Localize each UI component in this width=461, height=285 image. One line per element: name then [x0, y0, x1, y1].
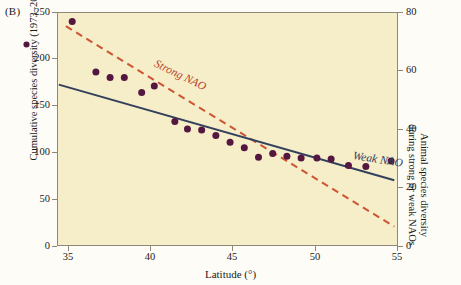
scatter-point	[92, 68, 99, 75]
strong-nao-trendline	[66, 26, 394, 226]
scatter-point	[345, 162, 352, 169]
x-axis-title: Latitude (°)	[0, 268, 461, 280]
scatter-point	[283, 153, 290, 160]
y-right-tick-20: 20	[406, 181, 436, 192]
x-tick-40: 40	[135, 251, 165, 262]
scatter-point	[269, 150, 276, 157]
y-left-tick-250: 250	[20, 6, 50, 17]
scatter-point	[328, 156, 335, 163]
y-left-tick-200: 200	[20, 52, 50, 63]
panel-label: (B)	[5, 5, 20, 17]
scatter-point	[198, 127, 205, 134]
plot-canvas	[58, 13, 399, 247]
scatter-point	[171, 118, 178, 125]
y-right-tick-80: 80	[406, 6, 436, 17]
x-tick-35: 35	[53, 251, 83, 262]
scatter-point	[184, 126, 191, 133]
scatter-point	[255, 154, 262, 161]
x-tick-45: 45	[217, 251, 247, 262]
y-left-tick-0: 0	[20, 240, 50, 251]
scatter-point	[121, 74, 128, 81]
scatter-point	[241, 144, 248, 151]
y-right-tick-0: 0	[406, 240, 436, 251]
scatter-point	[151, 83, 158, 90]
scatter-point	[313, 155, 320, 162]
scatter-point	[227, 139, 234, 146]
scatter-point	[362, 163, 369, 170]
plot-area: Strong NAO Weak NAO	[57, 12, 398, 246]
scatter-point	[107, 74, 114, 81]
line-strong-path	[66, 26, 394, 226]
y-left-tick-50: 50	[20, 193, 50, 204]
scatter-point	[298, 155, 305, 162]
scatter-points-group	[69, 18, 395, 170]
y-right-tick-60: 60	[406, 64, 436, 75]
x-tick-50: 50	[300, 251, 330, 262]
line-weak-path	[59, 85, 394, 181]
y-left-tick-150: 150	[20, 99, 50, 110]
y-left-tick-100: 100	[20, 146, 50, 157]
scatter-point	[212, 132, 219, 139]
y-axis-left-title: Cumulative species diversity (1973–2003)…	[28, 0, 39, 169]
scatter-point	[138, 89, 145, 96]
y-right-tick-40: 40	[406, 123, 436, 134]
scatter-point	[69, 18, 76, 25]
weak-nao-trendline	[59, 85, 394, 181]
figure-panel-b: (B) Cumulative species diversity (1973–2…	[0, 0, 461, 285]
x-tick-55: 55	[382, 251, 412, 262]
